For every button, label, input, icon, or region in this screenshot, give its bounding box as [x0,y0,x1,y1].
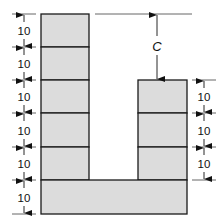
dimension-label: 10 [198,91,211,103]
right-column [138,80,187,180]
dimension-label: 10 [18,192,31,204]
left-block-5 [41,147,89,180]
right-block-2 [138,113,187,147]
dimension-label: 10 [18,91,31,103]
dimension-label: 10 [18,25,31,37]
dimension-label: 10 [18,158,31,170]
base-block [41,180,187,214]
left-block-1 [41,14,89,47]
left-block-3 [41,80,89,113]
left-block-4 [41,113,89,147]
right-block-3 [138,147,187,180]
left-block-2 [41,47,89,80]
dimension-label: 10 [198,125,211,137]
dimension-label: 10 [198,158,211,170]
block-diagram: 10 10 10 10 10 10 C 10 10 10 [0,0,220,221]
gap-label: C [152,39,162,54]
right-block-1 [138,80,187,113]
right-dimensions: 10 10 10 [198,81,211,179]
dimension-label: 10 [18,58,31,70]
dimension-label: 10 [18,125,31,137]
left-dimensions: 10 10 10 10 10 10 [18,15,31,213]
gap-dimension-c: C [152,15,162,79]
left-column [41,14,89,180]
